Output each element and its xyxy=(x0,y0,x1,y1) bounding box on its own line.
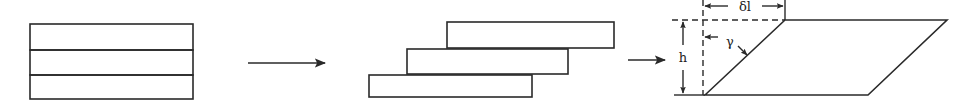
sheared-parallelogram: δl h γ xyxy=(672,0,947,95)
height-dimension: h xyxy=(679,22,688,93)
sheared-layer-middle xyxy=(407,49,568,74)
shear-diagram: δl h γ xyxy=(0,0,970,110)
layer-bottom xyxy=(30,75,193,99)
gamma-label: γ xyxy=(726,34,734,49)
delta-l-dimension: δl xyxy=(705,0,783,14)
sheared-layers xyxy=(369,22,614,97)
delta-l-label: δl xyxy=(739,0,751,14)
layer-middle xyxy=(30,50,193,75)
sheared-layer-top xyxy=(447,22,614,48)
sheared-layer-bottom xyxy=(369,75,532,97)
layer-top xyxy=(30,24,193,50)
height-label: h xyxy=(679,50,688,65)
shear-angle-indicator: γ xyxy=(705,34,747,55)
parallelogram-shape xyxy=(705,20,947,95)
undeformed-stack xyxy=(30,24,193,99)
